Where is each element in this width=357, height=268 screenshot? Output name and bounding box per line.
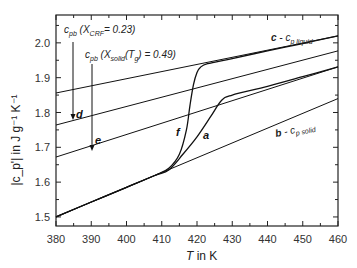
label-f: f: [176, 126, 181, 138]
x-tick-label: 410: [153, 233, 171, 245]
annotation-cpb-xcrf: cpb (XCRF= 0.23): [64, 24, 135, 38]
y-tick-label: 1.7: [35, 141, 50, 153]
x-tick-label: 440: [258, 233, 276, 245]
plot-frame: [56, 15, 338, 226]
plot-series: [56, 36, 338, 217]
x-tick-label: 430: [223, 233, 241, 245]
x-tick-label: 450: [294, 233, 312, 245]
x-tick-label: 390: [82, 233, 100, 245]
arrow-d: [71, 42, 76, 120]
y-tick-label: 1.5: [35, 211, 50, 223]
x-tick-label: 420: [188, 233, 206, 245]
arrow-e: [90, 64, 95, 151]
y-axis-title: |c_p'| in J g⁻¹ K⁻¹: [9, 94, 23, 185]
series-d: [56, 51, 338, 125]
y-tick-label: 1.8: [35, 107, 50, 119]
chart: 380 390 400 410 420 430 440 450 460 1.5 …: [0, 0, 357, 268]
label-e: e: [95, 134, 101, 146]
x-tick-label: 460: [329, 233, 347, 245]
label-c-cp-liquid: c - cp liquid: [271, 32, 314, 46]
x-axis-tick-labels: 380 390 400 410 420 430 440 450 460: [47, 233, 347, 245]
label-a: a: [203, 129, 209, 141]
y-tick-label: 1.6: [35, 176, 50, 188]
y-axis-tick-labels: 1.5 1.6 1.7 1.8 1.9 2.0: [35, 37, 50, 223]
x-axis-ticks: [56, 15, 338, 226]
x-tick-label: 380: [47, 233, 65, 245]
x-axis-title: T in K: [186, 249, 217, 263]
annotation-cpb-xsolid: cpb (Xsolid(Tg) = 0.49): [85, 49, 176, 63]
y-tick-label: 2.0: [35, 37, 50, 49]
y-tick-label: 1.9: [35, 72, 50, 84]
label-d: d: [76, 108, 83, 120]
series-f: [56, 36, 338, 217]
x-tick-label: 400: [117, 233, 135, 245]
